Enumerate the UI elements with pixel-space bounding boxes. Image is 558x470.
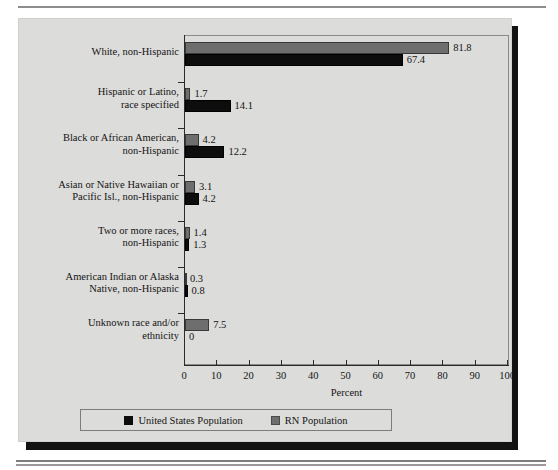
category-label: American Indian or Alaska Native, non-Hi… bbox=[19, 271, 179, 296]
x-axis-title: Percent bbox=[184, 387, 509, 398]
category-tick bbox=[178, 267, 185, 268]
bar-rn bbox=[185, 88, 190, 100]
x-tick-label: 0 bbox=[181, 369, 186, 382]
legend-swatch-icon bbox=[124, 416, 133, 425]
category-row: Asian or Native Hawaiian or Pacific Isl.… bbox=[19, 175, 513, 221]
bar-rn bbox=[185, 181, 195, 193]
x-tick-label: 10 bbox=[211, 369, 222, 382]
bar-us bbox=[185, 146, 224, 158]
category-row: Two or more races, non-Hispanic1.41.3 bbox=[19, 221, 513, 267]
category-label: Two or more races, non-Hispanic bbox=[19, 225, 179, 250]
chart-legend: United States PopulationRN Population bbox=[80, 409, 392, 431]
bar-us bbox=[185, 100, 231, 112]
category-tick bbox=[178, 128, 185, 129]
legend-swatch-icon bbox=[271, 416, 280, 425]
legend-entry[interactable]: United States Population bbox=[124, 415, 242, 426]
category-row: Unknown race and/or ethnicity7.50 bbox=[19, 313, 513, 359]
bar-value-label: 1.7 bbox=[194, 87, 207, 101]
bar-value-label: 1.3 bbox=[193, 238, 206, 252]
x-tick bbox=[249, 360, 250, 366]
bar-rn bbox=[185, 134, 199, 146]
category-row: Black or African American, non-Hispanic4… bbox=[19, 128, 513, 174]
page-bottom-rule-upper bbox=[16, 460, 546, 462]
category-label: Unknown race and/or ethnicity bbox=[19, 317, 179, 342]
x-tick bbox=[216, 360, 217, 366]
bar-us bbox=[185, 193, 199, 205]
category-label: White, non-Hispanic bbox=[19, 46, 179, 58]
x-tick bbox=[475, 360, 476, 366]
x-tick-label: 30 bbox=[276, 369, 287, 382]
category-row: Hispanic or Latino, race specified1.714.… bbox=[19, 82, 513, 128]
x-tick bbox=[184, 360, 185, 366]
x-tick-label: 80 bbox=[437, 369, 448, 382]
bar-value-label: 67.4 bbox=[407, 53, 425, 67]
bar-us bbox=[185, 285, 188, 297]
page-bottom-rule-lower bbox=[16, 464, 546, 466]
x-tick-label: 60 bbox=[373, 369, 384, 382]
x-tick bbox=[507, 360, 508, 366]
bar-rn bbox=[185, 227, 190, 239]
bar-rn bbox=[185, 273, 187, 285]
category-row: American Indian or Alaska Native, non-Hi… bbox=[19, 267, 513, 313]
bar-us bbox=[185, 54, 403, 66]
x-tick bbox=[442, 360, 443, 366]
legend-entry[interactable]: RN Population bbox=[271, 415, 348, 426]
category-label: Asian or Native Hawaiian or Pacific Isl.… bbox=[19, 179, 179, 204]
x-tick-label: 40 bbox=[308, 369, 319, 382]
x-tick-label: 100 bbox=[499, 369, 515, 382]
bar-value-label: 14.1 bbox=[235, 99, 253, 113]
bar-value-label: 81.8 bbox=[453, 41, 471, 55]
chart-figure-panel: White, non-Hispanic81.867.4Hispanic or L… bbox=[18, 18, 512, 442]
x-axis-line bbox=[184, 365, 509, 366]
bar-value-label: 0 bbox=[189, 330, 194, 344]
x-tick-label: 70 bbox=[405, 369, 416, 382]
x-tick bbox=[346, 360, 347, 366]
x-tick bbox=[313, 360, 314, 366]
category-tick bbox=[178, 313, 185, 314]
x-tick-label: 50 bbox=[340, 369, 351, 382]
x-tick-label: 20 bbox=[243, 369, 254, 382]
legend-label: United States Population bbox=[138, 415, 242, 426]
category-row: White, non-Hispanic81.867.4 bbox=[19, 36, 513, 82]
bar-value-label: 4.2 bbox=[203, 192, 216, 206]
page-top-rule bbox=[18, 6, 546, 8]
bar-value-label: 4.2 bbox=[203, 133, 216, 147]
bar-value-label: 0.8 bbox=[192, 284, 205, 298]
bar-value-label: 7.5 bbox=[213, 318, 226, 332]
x-tick bbox=[281, 360, 282, 366]
x-tick bbox=[378, 360, 379, 366]
bar-value-label: 12.2 bbox=[228, 145, 246, 159]
bar-us bbox=[185, 239, 189, 251]
category-label: Hispanic or Latino, race specified bbox=[19, 86, 179, 111]
category-tick bbox=[178, 82, 185, 83]
category-tick bbox=[178, 175, 185, 176]
legend-label: RN Population bbox=[285, 415, 348, 426]
category-label: Black or African American, non-Hispanic bbox=[19, 132, 179, 157]
x-tick bbox=[410, 360, 411, 366]
category-tick bbox=[178, 221, 185, 222]
x-tick-label: 90 bbox=[469, 369, 480, 382]
